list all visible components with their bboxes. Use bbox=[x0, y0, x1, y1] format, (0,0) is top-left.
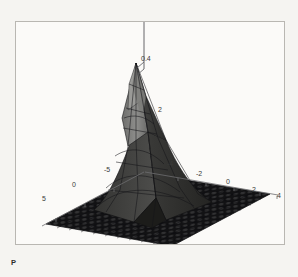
z-tick-label-0-2: 2 bbox=[158, 106, 162, 113]
left-axis-tick-0: 0 bbox=[72, 181, 76, 188]
right-axis-tick-4: 4 bbox=[277, 192, 281, 199]
z-axis-caption-label: P bbox=[11, 258, 16, 267]
right-axis-tick-minus-4: -4 bbox=[167, 160, 173, 167]
figure-container: 0.4 2 5 0 -5 -4 -2 0 2 4 P bbox=[0, 0, 298, 277]
right-axis-tick-2: 2 bbox=[252, 186, 256, 193]
right-axis-tick-minus-2: -2 bbox=[196, 170, 202, 177]
z-tick-label-0-4: 0.4 bbox=[141, 55, 151, 62]
peak-spike bbox=[122, 63, 166, 146]
right-axis-tick-0: 0 bbox=[226, 178, 230, 185]
left-axis-tick-5: 5 bbox=[42, 195, 46, 202]
z-axis bbox=[137, 22, 144, 75]
plot-frame: 0.4 2 5 0 -5 -4 -2 0 2 4 bbox=[15, 21, 285, 245]
left-axis-tick-minus-5: -5 bbox=[104, 166, 110, 173]
